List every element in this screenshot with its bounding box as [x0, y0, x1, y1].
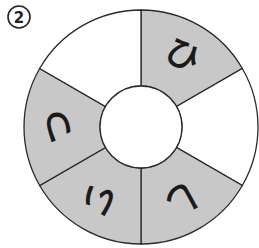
- sector-label-left: つ: [38, 110, 78, 144]
- kana-wheel-diagram: ひしいつ: [0, 0, 259, 248]
- wheel-center-hole: [100, 86, 182, 168]
